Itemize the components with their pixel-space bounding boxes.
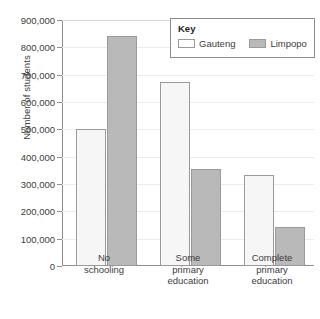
legend-entry-gauteng: Gauteng <box>178 38 235 49</box>
y-axis-tick-label: 800,000 <box>21 42 55 53</box>
x-axis-label: Someprimaryeducation <box>140 252 236 287</box>
bar-limpopo <box>107 36 137 266</box>
x-axis-label-line: Complete <box>224 252 320 264</box>
legend-title: Key <box>178 23 314 35</box>
y-axis-tick-label: 0 <box>50 261 55 272</box>
bar-gauteng <box>160 82 190 267</box>
y-axis-tick-label: 400,000 <box>21 151 55 162</box>
y-axis-tick-label: 700,000 <box>21 69 55 80</box>
x-axis-label-line: primary <box>224 264 320 276</box>
legend-swatch <box>249 39 266 48</box>
x-axis-label-line: Some <box>140 252 236 264</box>
x-axis-label-line: primary <box>140 264 236 276</box>
legend-label: Limpopo <box>270 38 306 49</box>
x-axis-label-line: schooling <box>56 264 152 276</box>
x-axis-label: Noschooling <box>56 252 152 275</box>
x-axis-label-line: education <box>140 275 236 287</box>
y-axis-tick-label: 100,000 <box>21 233 55 244</box>
y-axis-tick-label: 300,000 <box>21 179 55 190</box>
y-axis-tick-label: 200,000 <box>21 206 55 217</box>
x-axis-label-line: No <box>56 252 152 264</box>
bar-group <box>62 20 146 266</box>
bar-gauteng <box>76 129 106 266</box>
legend-entry-limpopo: Limpopo <box>249 38 306 49</box>
legend-swatch <box>178 39 195 48</box>
x-axis-label: Completeprimaryeducation <box>224 252 320 287</box>
y-axis-tick-label: 500,000 <box>21 124 55 135</box>
legend: Key GautengLimpopo <box>170 18 315 58</box>
legend-label: Gauteng <box>199 38 235 49</box>
y-axis-tick-label: 600,000 <box>21 97 55 108</box>
x-axis-label-line: education <box>224 275 320 287</box>
legend-entries: GautengLimpopo <box>178 38 314 49</box>
bar-chart: Number of students 900,000800,000700,000… <box>0 0 320 319</box>
y-axis-tick-label: 900,000 <box>21 15 55 26</box>
